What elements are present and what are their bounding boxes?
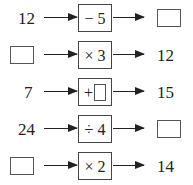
answer-blank[interactable] (10, 46, 34, 64)
operation-box: ÷ 4 (78, 115, 112, 143)
arrow-icon (44, 128, 77, 129)
input-value: 7 (24, 81, 33, 105)
machine-row-4: 24 ÷ 4 (0, 115, 193, 145)
machine-row-1: 12 − 5 (0, 4, 193, 34)
operation-box: × 3 (78, 41, 112, 69)
arrow-icon (113, 17, 144, 18)
output-value: 14 (157, 155, 174, 179)
arrow-icon (44, 17, 77, 18)
arrow-icon (113, 165, 144, 166)
arrow-icon (113, 91, 144, 92)
answer-blank[interactable] (10, 157, 34, 175)
operation-box: + (78, 78, 112, 106)
operation-box: − 5 (78, 4, 112, 32)
answer-blank[interactable] (157, 120, 181, 138)
answer-blank[interactable] (157, 9, 181, 27)
operation-box: × 2 (78, 152, 112, 180)
arrow-icon (44, 54, 77, 55)
operator-symbol: + (84, 84, 93, 101)
output-value: 15 (157, 81, 174, 105)
output-value: 12 (157, 44, 174, 68)
arrow-icon (44, 91, 77, 92)
machine-row-5: × 2 14 (0, 152, 193, 182)
operand-blank[interactable] (94, 84, 106, 101)
arrow-icon (113, 54, 144, 55)
arrow-icon (44, 165, 77, 166)
input-value: 24 (18, 118, 35, 142)
machine-row-3: 7 + 15 (0, 78, 193, 108)
arrow-icon (113, 128, 144, 129)
machine-row-2: × 3 12 (0, 41, 193, 71)
input-value: 12 (18, 7, 35, 31)
